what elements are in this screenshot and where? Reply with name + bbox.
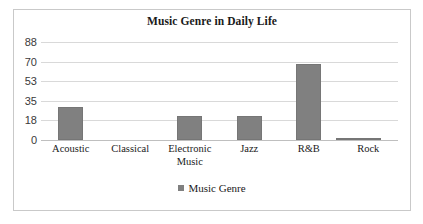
- x-axis-label-classical: Classical: [101, 143, 161, 156]
- x-axis-label-rock: Rock: [339, 143, 399, 156]
- gridline-0: [41, 140, 398, 141]
- bar-series-music-genre: [41, 42, 398, 140]
- x-axis-label-electronic-music: ElectronicMusic: [160, 143, 220, 168]
- bar-r-b: [296, 64, 321, 140]
- x-axis-label-line: Rock: [339, 143, 399, 156]
- x-axis-label-acoustic: Acoustic: [41, 143, 101, 156]
- bar-jazz: [237, 116, 262, 141]
- plot-area: 01835537088: [41, 42, 398, 140]
- y-axis-tick-70: 70: [25, 56, 37, 68]
- y-axis-tick-0: 0: [31, 134, 37, 146]
- chart-legend: Music Genre: [14, 182, 410, 194]
- x-axis-label-line: Acoustic: [41, 143, 101, 156]
- bar-extra-0: [336, 138, 361, 140]
- chart-frame: Music Genre in Daily Life 01835537088 Ac…: [13, 9, 411, 211]
- x-axis-label-line: Electronic: [160, 143, 220, 156]
- y-axis-tick-35: 35: [25, 95, 37, 107]
- y-axis-tick-53: 53: [25, 75, 37, 87]
- legend-swatch-icon: [178, 185, 184, 191]
- y-axis-tick-18: 18: [25, 114, 37, 126]
- x-axis-labels: AcousticClassicalElectronicMusicJazzR&BR…: [41, 143, 398, 173]
- legend-label: Music Genre: [188, 182, 245, 194]
- x-axis-label-line: R&B: [279, 143, 339, 156]
- chart-title: Music Genre in Daily Life: [14, 15, 410, 27]
- bar-electronic-music: [177, 116, 202, 141]
- x-axis-label-r-b: R&B: [279, 143, 339, 156]
- y-axis-tick-88: 88: [25, 36, 37, 48]
- x-axis-label-line: Jazz: [220, 143, 280, 156]
- x-axis-label-jazz: Jazz: [220, 143, 280, 156]
- x-axis-label-line: Music: [160, 156, 220, 169]
- bar-acoustic: [58, 107, 83, 140]
- x-axis-label-line: Classical: [101, 143, 161, 156]
